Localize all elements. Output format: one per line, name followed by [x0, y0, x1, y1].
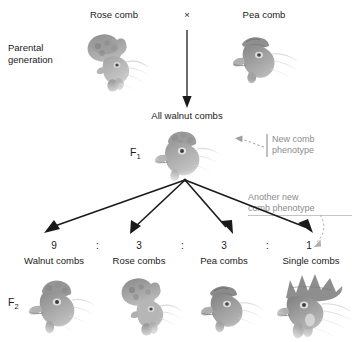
ratio-value-single: 1 [275, 240, 343, 251]
f1-phenotype-label: All walnut combs [130, 110, 244, 122]
f2-column-label-rose: Rose combs [99, 255, 179, 267]
cross-arrow [180, 30, 194, 110]
parental-generation-line2: generation [8, 54, 53, 65]
f2-subscript: 2 [14, 302, 18, 311]
rose-comb-parent-image [76, 22, 152, 94]
f2-arrow-fan [0, 176, 358, 246]
f2-rose-comb-image [110, 268, 182, 338]
new-phenotype-annotation: New combphenotype [272, 134, 315, 156]
parental-generation-label: Parentalgeneration [8, 42, 53, 65]
f2-pea-comb-image [196, 270, 266, 338]
parental-generation-line1: Parental [8, 42, 43, 53]
new-phenotype-line1: New comb [272, 134, 315, 144]
f2-column-label-single: Single combs [269, 255, 353, 267]
pea-comb-parent-image [228, 22, 302, 92]
ratio-separator-3: : [266, 240, 269, 251]
f1-walnut-comb-image [152, 121, 222, 183]
ratio-value-walnut: 9 [20, 240, 88, 251]
ratio-value-pea: 3 [190, 240, 258, 251]
f2-column-label-pea: Pea combs [184, 255, 264, 267]
f1-generation-label: F1 [130, 146, 141, 161]
ratio-value-rose: 3 [105, 240, 173, 251]
f2-column-label-walnut: Walnut combs [14, 255, 94, 267]
ratio-separator-2: : [181, 240, 184, 251]
ratio-separator-1: : [96, 240, 99, 251]
f1-subscript: 1 [136, 152, 140, 161]
f2-single-comb-image [276, 266, 356, 340]
f2-generation-label: F2 [8, 296, 19, 311]
pea-comb-parent-label: Pea comb [228, 9, 300, 21]
cross-symbol: × [170, 9, 204, 21]
new-phenotype-leader [218, 134, 266, 152]
rose-comb-parent-label: Rose comb [78, 9, 150, 21]
new-phenotype-line2: phenotype [272, 145, 314, 155]
new-phenotype-accent-bar [266, 134, 268, 157]
f2-walnut-comb-image [26, 270, 96, 338]
